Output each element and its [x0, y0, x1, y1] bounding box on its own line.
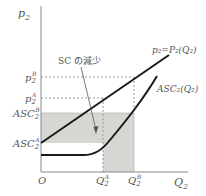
- sc-reduction-area: [41, 113, 134, 172]
- qA-label: Q2A: [96, 173, 110, 188]
- x-axis-label: Q2: [174, 176, 188, 191]
- ascB-label: ASC2B: [12, 106, 40, 121]
- diagram: p2 Q2 O p2B p2A ASC2B ASC2A Q2A Q2B p₂=P…: [0, 0, 206, 196]
- demand-curve-label: p₂=P₂(Q₂): [152, 45, 197, 55]
- pB-label: p2B: [25, 70, 37, 85]
- ascA-label: ASC2A: [12, 136, 40, 151]
- origin-label: O: [38, 175, 46, 186]
- y-axis-label: p2: [18, 7, 30, 22]
- sc-reduction-label: SC の減少: [58, 55, 101, 66]
- qB-label: Q2B: [128, 173, 142, 188]
- asc-curve-label: ASC₂(Q₂): [156, 84, 199, 94]
- pA-label: p2A: [25, 91, 37, 106]
